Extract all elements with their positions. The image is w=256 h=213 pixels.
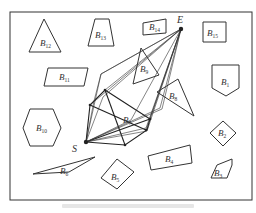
obstacle-b12: B12 [29,19,61,52]
obstacle-label: B1 [221,77,230,88]
obstacle-label: B12 [40,38,51,49]
obstacle-label: B5 [111,172,120,183]
end-point-label: E [176,14,183,25]
start-point-label: S [72,143,77,154]
path-node [124,144,127,147]
path-edge [86,119,150,142]
obstacle-label: B9 [140,64,149,75]
obstacle-label: B10 [36,123,47,134]
obstacle-label: B4 [165,154,174,165]
obstacle-b2: B2 [210,121,236,146]
figure-caption [62,204,194,208]
visibility-paths [86,29,181,146]
obstacle-b11: B11 [44,68,88,86]
obstacle-b14: B14 [143,19,166,35]
triangle-shape [133,48,159,84]
obstacles: B1B2B3B4B5B6B7B8B9B10B11B12B13B14B15 [23,19,239,189]
end-point-marker [179,27,183,31]
path-node [149,118,152,121]
obstacle-label: B14 [149,22,160,33]
obstacle-label: B3 [214,168,223,179]
obstacle-b7: B7 [123,115,132,126]
obstacle-b13: B13 [88,19,114,46]
diagram-canvas: B1B2B3B4B5B6B7B8B9B10B11B12B13B14B15 SE [0,0,256,213]
rectangle-shape [101,159,134,189]
obstacle-label: B6 [60,166,69,177]
obstacle-b9: B9 [133,48,159,84]
obstacle-label: B13 [95,30,106,41]
obstacle-b5: B5 [101,159,134,189]
obstacle-label: B2 [218,128,227,139]
path-node [104,89,107,92]
obstacle-b10: B10 [23,109,61,146]
obstacle-b15: B15 [203,22,226,42]
path-node [145,129,148,132]
obstacle-b4: B4 [148,145,192,170]
trapezoid-shape [88,19,114,46]
obstacle-b1: B1 [212,65,239,96]
obstacle-label: B11 [59,72,70,83]
path-node [89,104,92,107]
obstacle-label: B15 [207,28,218,39]
obstacle-label: B7 [123,115,132,126]
start-point-marker [84,140,88,144]
obstacle-b3: B3 [211,159,232,179]
obstacle-label: B8 [169,91,178,102]
obstacle-b6: B6 [33,157,95,177]
